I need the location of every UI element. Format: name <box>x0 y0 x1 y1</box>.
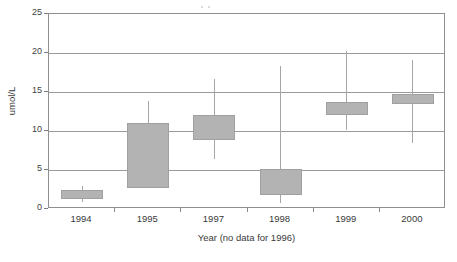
gridline-10 <box>49 131 444 132</box>
box-plot-1995 <box>127 14 169 207</box>
box-plot-1999 <box>326 14 368 207</box>
box-rect-1999 <box>326 102 368 114</box>
x-axis-tick-labels: 199419951997199819992000 <box>48 213 445 227</box>
gridline-20 <box>49 53 444 54</box>
gridline-5 <box>49 170 444 171</box>
plot-area <box>48 13 445 208</box>
x-tick-label-1999: 1999 <box>316 213 376 224</box>
x-tick-mark-1 <box>114 208 115 212</box>
y-tick-label-10: 10 <box>20 125 42 134</box>
x-tick-mark-4 <box>313 208 314 212</box>
box-rect-1994 <box>61 190 103 199</box>
box-plot-1994 <box>61 14 103 207</box>
x-tick-label-1995: 1995 <box>117 213 177 224</box>
box-rect-2000 <box>392 94 434 103</box>
x-tick-mark-2 <box>180 208 181 212</box>
box-rect-1995 <box>127 123 169 188</box>
x-tick-label-1997: 1997 <box>183 213 243 224</box>
box-plot-1997 <box>193 14 235 207</box>
x-tick-label-1998: 1998 <box>250 213 310 224</box>
y-tick-mark-0 <box>44 208 48 209</box>
x-tick-mark-3 <box>247 208 248 212</box>
box-plot-1998 <box>260 14 302 207</box>
x-axis-title: Year (no data for 1996) <box>48 232 445 243</box>
x-tick-label-2000: 2000 <box>382 213 442 224</box>
box-rect-1998 <box>260 169 302 195</box>
x-tick-mark-5 <box>379 208 380 212</box>
box-plot-2000 <box>392 14 434 207</box>
y-tick-label-25: 25 <box>20 8 42 17</box>
x-tick-label-1994: 1994 <box>51 213 111 224</box>
whisker-1999 <box>346 51 347 131</box>
box-rect-1997 <box>193 115 235 140</box>
y-tick-label-20: 20 <box>20 47 42 56</box>
gridline-15 <box>49 92 444 93</box>
scan-artifact-speck <box>200 5 214 9</box>
y-tick-label-15: 15 <box>20 86 42 95</box>
y-tick-label-0: 0 <box>20 203 42 212</box>
y-axis-tick-labels: 0510152025 <box>16 13 42 208</box>
box-plot-chart: umol/L 0510152025 1994199519971998199920… <box>0 0 457 262</box>
y-tick-label-5: 5 <box>20 164 42 173</box>
